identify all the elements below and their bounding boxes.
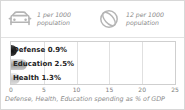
ball-icon — [96, 8, 122, 30]
bar-chart: Defense 0.9%Education 2.5%Health 1.3% 05… — [1, 38, 184, 109]
bar-label-health: Health 1.3% — [13, 72, 61, 84]
stat-car: 1 per 1000 population — [1, 8, 91, 30]
x-tick-label: 0 — [9, 86, 13, 93]
stat-ball-line2: population — [126, 19, 164, 27]
x-tick-label: 25 — [171, 86, 179, 93]
chart-x-axis: 0510152025 — [10, 85, 176, 95]
stats-strip: 1 per 1000 population 12 per 1000 popula… — [1, 1, 184, 38]
stat-car-text: 1 per 1000 population — [37, 11, 71, 26]
x-tick-label: 10 — [73, 86, 81, 93]
x-tick-label: 20 — [138, 86, 146, 93]
x-tick-label: 15 — [106, 86, 114, 93]
chart-caption: Defense, Health, Education spending as %… — [5, 95, 183, 103]
car-icon — [7, 8, 33, 30]
stat-car-line2: population — [37, 19, 71, 27]
bar-label-education: Education 2.5% — [13, 58, 74, 70]
stat-ball: 12 per 1000 population — [91, 8, 184, 30]
chart-plot-area: Defense 0.9%Education 2.5%Health 1.3% — [10, 41, 176, 85]
chart-bars: Defense 0.9%Education 2.5%Health 1.3% — [11, 42, 175, 84]
bar-label-defense: Defense 0.9% — [13, 44, 67, 56]
stat-ball-line1: 12 per 1000 — [126, 11, 164, 18]
stat-car-line1: 1 per 1000 — [37, 11, 71, 18]
x-tick-label: 5 — [42, 86, 46, 93]
infographic-panel: 1 per 1000 population 12 per 1000 popula… — [0, 0, 185, 110]
stat-ball-text: 12 per 1000 population — [126, 11, 164, 26]
